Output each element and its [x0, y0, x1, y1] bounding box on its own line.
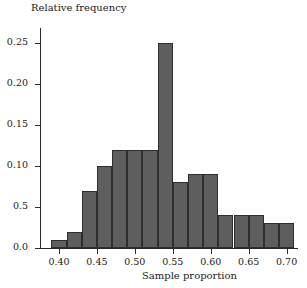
y-axis-tick-label: 0.25	[7, 36, 28, 47]
y-axis-title: Relative frequency	[31, 2, 126, 13]
histogram-bar	[67, 232, 82, 248]
x-axis-title-text: Sample proportion	[142, 270, 237, 281]
x-axis-tick-label: 0.55	[162, 256, 183, 267]
y-axis-tick: 0.20	[35, 84, 40, 85]
x-axis-tick	[287, 249, 288, 254]
x-axis-title: Sample proportion	[0, 270, 307, 281]
histogram-bar	[127, 150, 142, 249]
y-axis-tick: 0.25	[35, 43, 40, 44]
histogram-bar	[218, 215, 233, 248]
plot-area: 0.00.50.100.150.200.25 0.400.450.500.550…	[40, 28, 298, 248]
histogram-bar	[203, 174, 218, 248]
histogram-bar	[142, 150, 157, 249]
x-axis-tick-label: 0.65	[238, 256, 259, 267]
x-axis-tick	[97, 249, 98, 254]
x-axis-tick	[211, 249, 212, 254]
histogram-figure: Relative frequency 0.00.50.100.150.200.2…	[0, 0, 307, 288]
histogram-bar	[112, 150, 127, 249]
x-axis-tick-label: 0.60	[200, 256, 221, 267]
histogram-bar	[173, 182, 188, 248]
y-axis-tick-label: 0.10	[7, 159, 28, 170]
x-axis-tick	[249, 249, 250, 254]
histogram-bar	[51, 240, 66, 248]
y-axis-line	[40, 28, 41, 249]
y-axis-tick: 0.5	[35, 207, 40, 208]
histogram-bar	[158, 43, 173, 248]
histogram-bar	[97, 166, 112, 248]
y-axis-tick: 0.15	[35, 125, 40, 126]
histogram-bar	[279, 223, 294, 248]
x-axis-tick	[135, 249, 136, 254]
y-axis-tick: 0.0	[35, 248, 40, 249]
y-axis-tick: 0.10	[35, 166, 40, 167]
x-axis-tick	[59, 249, 60, 254]
x-axis-line	[40, 248, 298, 249]
x-axis-tick-label: 0.70	[276, 256, 297, 267]
x-axis-tick-label: 0.45	[86, 256, 107, 267]
histogram-bar	[234, 215, 249, 248]
histogram-bar	[264, 223, 279, 248]
x-axis-tick-label: 0.50	[124, 256, 145, 267]
y-axis-tick-label: 0.20	[7, 77, 28, 88]
histogram-bar	[249, 215, 264, 248]
x-axis-tick-label: 0.40	[48, 256, 69, 267]
histogram-bar	[188, 174, 203, 248]
y-axis-tick-label: 0.0	[13, 241, 28, 252]
y-axis-tick-label: 0.5	[13, 200, 28, 211]
histogram-bar	[82, 191, 97, 248]
x-axis-tick	[173, 249, 174, 254]
y-axis-tick-label: 0.15	[7, 118, 28, 129]
